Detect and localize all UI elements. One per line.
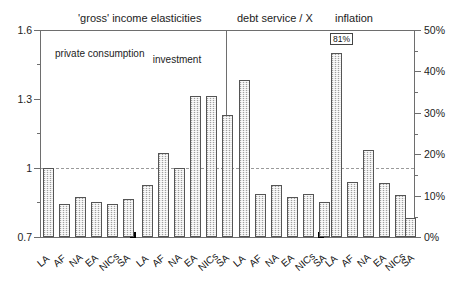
bar-inflation-EA	[379, 183, 390, 237]
plot-baseline	[40, 237, 415, 238]
bar-investment-NICs	[206, 96, 217, 237]
right-minor-tick-25	[414, 134, 418, 135]
right-axis-tick-label-4: 40%	[424, 65, 445, 77]
bar-investment-LA	[142, 185, 153, 237]
xlabel-g4-AF: AF	[339, 252, 356, 269]
bar-debt-service-AF	[255, 194, 266, 237]
left-axis-tick-label-0: 0.7	[0, 231, 32, 243]
annotation-investment: investment	[146, 54, 208, 66]
bar-inflation-NA	[363, 150, 374, 237]
bar-private-consumption-NA	[75, 197, 86, 237]
left-tick-mark-1.3	[34, 99, 41, 100]
left-minor-tick-1.15	[37, 133, 41, 134]
bar-debt-service-LA	[239, 80, 250, 237]
bar-inflation-SA	[405, 218, 416, 237]
xlabel-g3-LA: LA	[231, 253, 247, 269]
left-axis-tick-label-3: 1.6	[0, 24, 32, 36]
xlabel-g1-AF: AF	[51, 252, 68, 269]
chart-root: 'gross' income elasticities debt service…	[0, 0, 452, 282]
bar-investment-EA	[190, 96, 201, 237]
bar-private-consumption-LA	[43, 168, 54, 237]
right-axis-tick-label-2: 20%	[424, 148, 445, 160]
bar-investment-SA	[222, 115, 233, 237]
bar-investment-AF	[158, 153, 169, 237]
left-tick-mark-0.7	[34, 237, 41, 238]
bar-private-consumption-NICs	[107, 204, 118, 237]
xlabel-g2-AF: AF	[150, 252, 167, 269]
right-axis-tick-label-0: 0%	[424, 231, 439, 243]
panel-title-elasticities: 'gross' income elasticities	[78, 12, 201, 24]
right-axis-tick-label-5: 50%	[424, 24, 445, 36]
left-minor-tick-0.85	[37, 202, 41, 203]
plot-top-border	[40, 30, 415, 31]
right-tick-mark-10	[414, 196, 421, 197]
bar-private-consumption-EA	[91, 202, 102, 237]
left-tick-mark-1.6	[34, 30, 41, 31]
xlabel-g4-LA: LA	[323, 253, 339, 269]
right-minor-tick-15	[414, 175, 418, 176]
annotation-investment-text: investment	[153, 54, 201, 65]
bar-debt-service-NICs	[303, 194, 314, 237]
bar-debt-service-EA	[287, 197, 298, 237]
left-minor-tick-1.45	[37, 64, 41, 65]
annotation-private-consumption: private consumption	[55, 48, 121, 60]
xlabel-g1-LA: LA	[35, 253, 51, 269]
left-axis-tick-label-1: 1	[0, 162, 32, 174]
right-tick-mark-40	[414, 71, 421, 72]
xlabel-g2-LA: LA	[134, 253, 150, 269]
left-tick-mark-1	[34, 168, 41, 169]
xlabel-g3-AF: AF	[247, 252, 264, 269]
callout-inflation-la-81: 81%	[330, 33, 353, 45]
bar-private-consumption-AF	[59, 204, 70, 237]
bar-debt-service-NA	[271, 185, 282, 237]
panel-title-debt-service: debt service / X	[237, 12, 313, 24]
bar-investment-NA	[174, 168, 185, 237]
left-axis-tick-label-2: 1.3	[0, 93, 32, 105]
right-minor-tick-35	[414, 92, 418, 93]
right-tick-mark-50	[414, 30, 421, 31]
right-axis-tick-label-3: 30%	[424, 107, 445, 119]
right-tick-mark-0	[414, 237, 421, 238]
bar-debt-service-SA	[319, 202, 330, 237]
bar-inflation-AF	[347, 182, 358, 237]
bar-private-consumption-SA	[123, 199, 134, 237]
right-minor-tick-45	[414, 51, 418, 52]
right-tick-mark-20	[414, 154, 421, 155]
panel-title-inflation: inflation	[335, 12, 373, 24]
bar-inflation-LA	[331, 53, 342, 237]
left-axis-line	[40, 30, 41, 238]
right-tick-mark-30	[414, 113, 421, 114]
right-axis-tick-label-1: 10%	[424, 190, 445, 202]
annotation-private-consumption-text: private consumption	[55, 48, 145, 59]
